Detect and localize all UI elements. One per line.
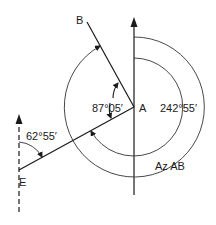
azimuth-diagram: B A E 87°05′ 242°55′ 62°55′ Az AB [0, 0, 216, 225]
label-az-AB: Az AB [155, 160, 185, 172]
label-angle-62-55: 62°55′ [26, 130, 57, 142]
label-point-A: A [139, 102, 147, 114]
north-arrow-icon-A [131, 17, 138, 27]
arc-87-05 [113, 83, 118, 98]
label-point-E: E [19, 176, 26, 188]
north-arrow-icon-E [16, 114, 23, 124]
label-angle-242-55: 242°55′ [160, 102, 197, 114]
arc-62-55 [19, 142, 42, 157]
label-point-B: B [76, 14, 83, 26]
label-angle-87-05: 87°05′ [92, 102, 123, 114]
line-AB [87, 22, 134, 107]
